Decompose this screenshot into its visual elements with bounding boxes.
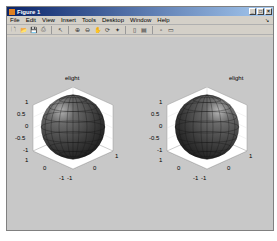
save-icon[interactable]: 💾 (29, 26, 37, 34)
x-tick: -1 (59, 175, 64, 181)
y-tick: 1 (249, 153, 252, 159)
plot-title-right: elight (229, 75, 243, 81)
close-button[interactable]: × (265, 8, 272, 15)
z-tick: 1 (25, 99, 28, 105)
data-cursor-icon[interactable]: ✦ (113, 26, 121, 34)
pan-icon[interactable]: ✋ (93, 26, 101, 34)
x-tick: 0 (43, 165, 46, 171)
menu-edit[interactable]: Edit (26, 17, 36, 23)
zoom-out-icon[interactable]: ⊖ (83, 26, 91, 34)
toolbar-divider (152, 26, 153, 34)
z-tick: -1 (23, 147, 28, 153)
menu-desktop[interactable]: Desktop (102, 17, 124, 23)
z-tick: -1 (157, 147, 162, 153)
z-tick: 0 (159, 123, 162, 129)
z-tick: 0 (25, 123, 28, 129)
new-figure-icon[interactable]: 🗋 (9, 26, 17, 34)
figure-canvas[interactable]: elight 1 0.5 0 -0.5 -1 1 0 -1 -1 0 1 (7, 37, 273, 230)
plot-title-left: elight (65, 75, 79, 81)
open-file-icon[interactable]: 📂 (19, 26, 27, 34)
minimize-button[interactable]: _ (249, 8, 256, 15)
show-plot-tools-icon[interactable]: ▭ (167, 26, 175, 34)
legend-icon[interactable]: ▤ (140, 26, 148, 34)
menu-file[interactable]: File (10, 17, 20, 23)
matlab-icon (9, 9, 15, 15)
figure-toolbar: 🗋 📂 💾 ⎙ ↖ ⊕ ⊖ ✋ ⟳ ✦ ▯ ▤ ▫ ▭ (7, 25, 273, 35)
toolbar-divider (125, 26, 126, 34)
subplot-right[interactable]: elight 1 0.5 0 -0.5 -1 1 0 -1 -1 0 1 (155, 87, 275, 207)
menu-window[interactable]: Window (130, 17, 151, 23)
menu-tools[interactable]: Tools (82, 17, 96, 23)
y-tick: 0 (227, 165, 230, 171)
y-tick: -1 (201, 175, 206, 181)
x-tick: 1 (25, 157, 28, 163)
y-tick: 0 (93, 165, 96, 171)
x-tick: 1 (159, 157, 162, 163)
z-tick: 1 (159, 99, 162, 105)
z-tick: 0.5 (151, 111, 159, 117)
menu-insert[interactable]: Insert (61, 17, 76, 23)
toolbar-divider (51, 26, 52, 34)
y-tick: 1 (115, 153, 118, 159)
figure-window: Figure 1 _ □ × File Edit View Insert Too… (6, 6, 274, 231)
z-tick: 0.5 (17, 111, 25, 117)
z-tick: -0.5 (15, 135, 25, 141)
menu-bar: File Edit View Insert Tools Desktop Wind… (7, 16, 273, 25)
edit-plot-icon[interactable]: ↖ (56, 26, 64, 34)
y-tick: -1 (67, 175, 72, 181)
rotate-3d-icon[interactable]: ⟳ (103, 26, 111, 34)
x-tick: -1 (193, 175, 198, 181)
menu-help[interactable]: Help (157, 17, 169, 23)
colorbar-icon[interactable]: ▯ (130, 26, 138, 34)
z-tick: -0.5 (149, 135, 159, 141)
toolbar-divider (68, 26, 69, 34)
print-icon[interactable]: ⎙ (39, 26, 47, 34)
window-title: Figure 1 (17, 9, 40, 15)
sphere-plot-left (21, 87, 141, 207)
sphere-plot-right (155, 87, 275, 207)
menu-view[interactable]: View (42, 17, 55, 23)
maximize-button[interactable]: □ (257, 8, 264, 15)
subplot-left[interactable]: elight 1 0.5 0 -0.5 -1 1 0 -1 -1 0 1 (21, 87, 141, 207)
zoom-in-icon[interactable]: ⊕ (73, 26, 81, 34)
hide-plot-tools-icon[interactable]: ▫ (157, 26, 165, 34)
title-bar[interactable]: Figure 1 _ □ × (7, 7, 273, 16)
dock-arrow-icon[interactable]: ↘ (265, 17, 269, 23)
x-tick: 0 (177, 165, 180, 171)
